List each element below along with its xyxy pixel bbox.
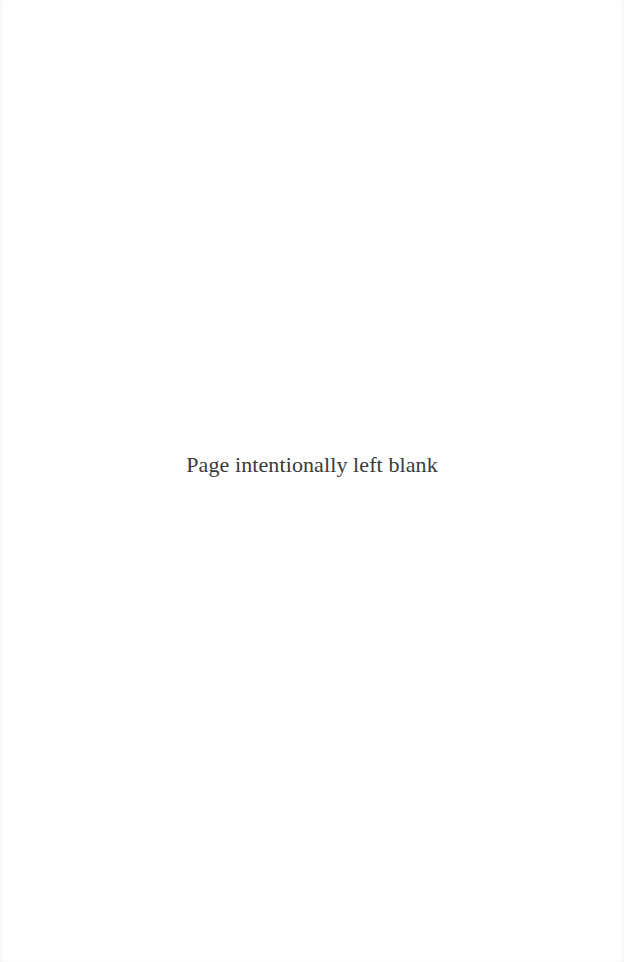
- blank-page-notice: Page intentionally left blank: [0, 452, 624, 478]
- document-page: Page intentionally left blank: [0, 0, 624, 962]
